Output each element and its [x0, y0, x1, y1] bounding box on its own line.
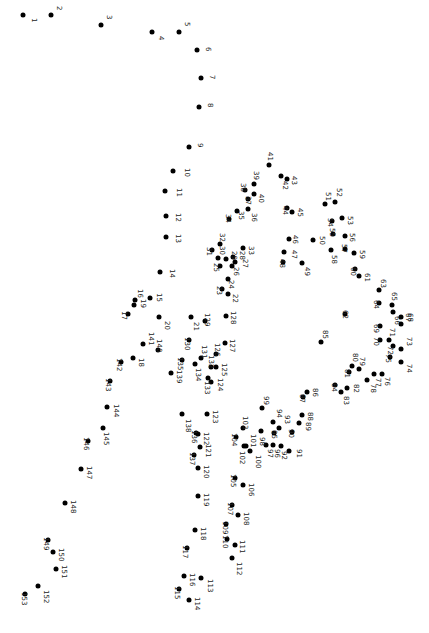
dot-47[interactable]	[282, 250, 287, 255]
dot-141[interactable]	[141, 342, 146, 347]
dot-73[interactable]	[399, 347, 404, 352]
dot-13[interactable]	[164, 235, 169, 240]
dot-22[interactable]	[226, 292, 231, 297]
dot-139[interactable]	[169, 371, 174, 376]
dot-12[interactable]	[164, 214, 169, 219]
dot-10[interactable]	[171, 169, 176, 174]
dot-66[interactable]	[391, 310, 396, 315]
dot-49[interactable]	[300, 261, 305, 266]
dot-41[interactable]	[267, 163, 272, 168]
dot-79[interactable]	[357, 367, 362, 372]
dot-106[interactable]	[241, 483, 246, 488]
dot-147[interactable]	[79, 467, 84, 472]
dot-65[interactable]	[390, 303, 395, 308]
dot-2[interactable]	[49, 13, 54, 18]
dot-94[interactable]	[271, 420, 276, 425]
dot-29[interactable]	[224, 257, 229, 262]
dot-5[interactable]	[177, 30, 182, 35]
dot-74[interactable]	[399, 360, 404, 365]
dot-120[interactable]	[196, 466, 201, 471]
dot-label: 47	[290, 250, 297, 259]
dot-label: 14	[168, 269, 175, 278]
dot-label: 85	[321, 330, 328, 339]
dot-19[interactable]	[132, 303, 137, 308]
dot-63[interactable]	[377, 288, 382, 293]
dot-133[interactable]	[206, 376, 211, 381]
dot-78[interactable]	[365, 378, 370, 383]
dot-83[interactable]	[339, 390, 344, 395]
dot-42[interactable]	[279, 174, 284, 179]
dot-88[interactable]	[300, 413, 305, 418]
dot-32[interactable]	[218, 242, 223, 247]
dot-114[interactable]	[187, 598, 192, 603]
dot-89[interactable]	[297, 421, 302, 426]
dot-76[interactable]	[380, 372, 385, 377]
dot-1[interactable]	[21, 13, 26, 18]
dot-18[interactable]	[131, 356, 136, 361]
dot-113[interactable]	[199, 576, 204, 581]
dot-85[interactable]	[319, 340, 324, 345]
dot-8[interactable]	[197, 105, 202, 110]
dot-96[interactable]	[271, 443, 276, 448]
dot-80[interactable]	[350, 364, 355, 369]
dot-56[interactable]	[343, 234, 348, 239]
dot-145[interactable]	[101, 426, 106, 431]
dot-119[interactable]	[196, 494, 201, 499]
dot-40[interactable]	[252, 192, 257, 197]
dot-3[interactable]	[99, 23, 104, 28]
dot-82[interactable]	[345, 386, 350, 391]
dot-128[interactable]	[224, 314, 229, 319]
dot-102[interactable]	[242, 444, 247, 449]
dot-39[interactable]	[252, 182, 257, 187]
dot-116[interactable]	[182, 574, 187, 579]
dot-99[interactable]	[260, 406, 265, 411]
dot-27[interactable]	[233, 260, 238, 265]
dot-61[interactable]	[357, 274, 362, 279]
dot-36[interactable]	[246, 207, 251, 212]
dot-label: 36	[250, 213, 257, 222]
dot-14[interactable]	[158, 270, 163, 275]
dot-33[interactable]	[241, 246, 246, 251]
dot-118[interactable]	[193, 528, 198, 533]
dot-21[interactable]	[189, 315, 194, 320]
dot-77[interactable]	[372, 372, 377, 377]
dot-127[interactable]	[223, 341, 228, 346]
dot-30[interactable]	[216, 256, 221, 261]
dot-152[interactable]	[36, 584, 41, 589]
dot-52[interactable]	[333, 200, 338, 205]
dot-151[interactable]	[54, 567, 59, 572]
dot-6[interactable]	[195, 48, 200, 53]
dot-98[interactable]	[259, 429, 264, 434]
dot-50[interactable]	[311, 238, 316, 243]
dot-label: 133	[203, 381, 210, 394]
dot-71[interactable]	[387, 338, 392, 343]
dot-144[interactable]	[105, 405, 110, 410]
dot-112[interactable]	[230, 556, 235, 561]
dot-138[interactable]	[180, 412, 185, 417]
dot-15[interactable]	[148, 296, 153, 301]
dot-20[interactable]	[157, 315, 162, 320]
dot-label: 95	[270, 430, 277, 439]
dot-label: 100	[254, 455, 261, 468]
dot-111[interactable]	[233, 543, 238, 548]
dot-4[interactable]	[150, 30, 155, 35]
dot-108[interactable]	[236, 513, 241, 518]
dot-7[interactable]	[199, 76, 204, 81]
dot-58[interactable]	[329, 248, 334, 253]
dot-11[interactable]	[163, 189, 168, 194]
dot-45[interactable]	[290, 210, 295, 215]
dot-label: 132	[207, 355, 214, 368]
dot-92[interactable]	[279, 444, 284, 449]
dot-59[interactable]	[352, 251, 357, 256]
dot-123[interactable]	[205, 412, 210, 417]
dot-150[interactable]	[51, 550, 56, 555]
dot-134[interactable]	[193, 362, 198, 367]
dot-53[interactable]	[340, 216, 345, 221]
dot-43[interactable]	[285, 177, 290, 182]
dot-68[interactable]	[399, 322, 404, 327]
dot-100[interactable]	[248, 449, 253, 454]
dot-148[interactable]	[63, 501, 68, 506]
dot-9[interactable]	[187, 145, 192, 150]
dot-67[interactable]	[399, 315, 404, 320]
dot-51[interactable]	[323, 202, 328, 207]
